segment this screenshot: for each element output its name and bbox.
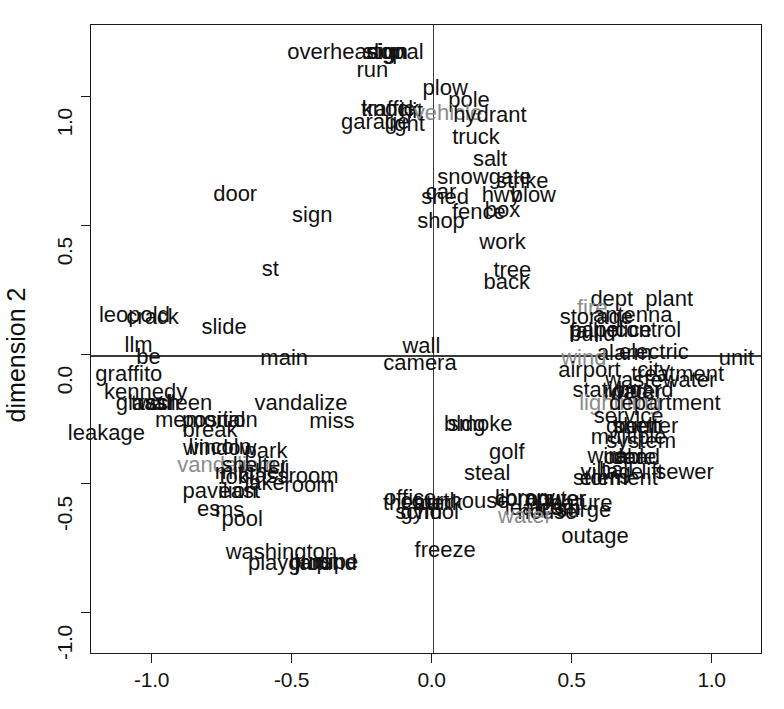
y-axis-label: dimension 2: [2, 287, 31, 422]
y-axis-tick-label: -0.5: [53, 496, 77, 531]
plot-area: overheadstopsignalsignrunplowpoletraffic…: [90, 24, 762, 654]
x-axis-tick-label: 0.0: [417, 668, 445, 692]
word-point: school: [395, 501, 459, 523]
word-point: work: [479, 231, 525, 253]
y-axis-tick-label: 0.5: [53, 237, 77, 265]
x-axis-tick-label: 0.5: [557, 668, 585, 692]
y-axis-tick: [81, 483, 90, 484]
word-point: surge: [556, 499, 611, 521]
word-point: steal: [464, 462, 510, 484]
x-axis-tick-label: -1.0: [134, 668, 169, 692]
word-point: control: [615, 319, 681, 341]
word-point: box: [485, 199, 520, 221]
y-axis-tick: [81, 612, 90, 613]
word-point: crack: [126, 306, 179, 328]
x-axis-tick-label: -0.5: [274, 668, 309, 692]
word-point: water: [498, 505, 552, 527]
word-point: sewer: [655, 461, 714, 483]
word-point: pipe: [317, 551, 359, 573]
word-labels-layer: overheadstopsignalsignrunplowpoletraffic…: [91, 25, 761, 653]
x-axis-tick: [711, 654, 712, 663]
x-axis-tick: [291, 654, 292, 663]
word-point: st: [262, 258, 279, 280]
x-axis-tick: [431, 654, 432, 663]
word-point: truck: [452, 126, 500, 148]
word-point: camera: [383, 352, 456, 374]
x-axis-tick: [151, 654, 152, 663]
x-axis-tick: [571, 654, 572, 663]
word-point: element: [580, 467, 658, 489]
word-point: miss: [309, 410, 354, 432]
word-point: run: [356, 59, 388, 81]
word-point: light: [384, 113, 424, 135]
word-point: main: [260, 347, 308, 369]
y-axis-tick: [81, 354, 90, 355]
word-point: outage: [561, 525, 628, 547]
word-point: smoke: [448, 413, 513, 435]
word-point: leakage: [68, 422, 145, 444]
word-point: freeze: [415, 539, 476, 561]
y-axis-tick: [81, 225, 90, 226]
word-point: hydrant: [453, 104, 526, 126]
word-point: slide: [201, 316, 246, 338]
word-point: pool: [221, 508, 263, 530]
word-point: door: [213, 183, 257, 205]
word-point: shop: [417, 210, 465, 232]
y-axis-tick-label: 0.0: [53, 366, 77, 394]
y-axis-tick-label: -1.0: [53, 625, 77, 660]
y-axis-tick-label: 1.0: [53, 108, 77, 136]
word-point: back: [484, 271, 530, 293]
x-axis-tick-label: 1.0: [697, 668, 725, 692]
word-point: sign: [292, 204, 332, 226]
y-axis-tick: [81, 96, 90, 97]
word-embedding-scatter-plot: overheadstopsignalsignrunplowpoletraffic…: [0, 0, 784, 709]
word-point: room: [284, 474, 334, 496]
